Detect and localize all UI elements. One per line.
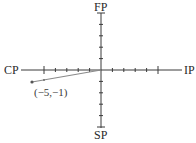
- point-label: (−5,−1): [34, 87, 67, 98]
- label-sp: SP: [94, 129, 107, 141]
- label-fp: FP: [94, 1, 107, 13]
- vector-marker: [43, 79, 45, 81]
- label-ip: IP: [184, 64, 195, 76]
- vector-endpoint: [30, 80, 33, 83]
- axes-svg: [0, 0, 196, 143]
- label-cp: CP: [4, 64, 19, 76]
- coordinate-diagram: CP IP FP SP (−5,−1): [0, 0, 196, 143]
